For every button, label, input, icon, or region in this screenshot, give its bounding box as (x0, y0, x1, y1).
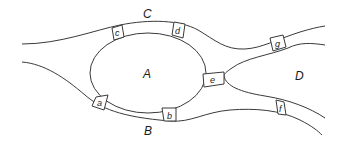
bridge-f: f (276, 100, 286, 115)
bridge-label-a: a (97, 98, 102, 108)
land-label-c: C (143, 7, 152, 21)
bridges-diagram: c d e g a b f C A B D (0, 0, 341, 143)
bridge-c: c (112, 25, 124, 40)
bridge-label-c: c (115, 28, 120, 38)
bridge-g: g (270, 35, 286, 51)
bridge-label-g: g (275, 39, 280, 49)
bridge-b: b (162, 108, 176, 121)
bridge-label-e: e (210, 75, 215, 85)
land-label-d: D (295, 69, 304, 83)
bridge-label-b: b (167, 111, 172, 121)
bridge-e: e (203, 72, 224, 87)
bridge-d: d (172, 22, 185, 38)
land-label-b: B (144, 124, 152, 138)
land-label-a: A (142, 67, 151, 81)
